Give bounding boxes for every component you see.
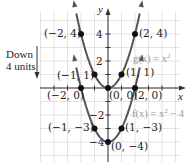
- f-label-tail: − 4: [168, 108, 185, 119]
- y-axis-arrow-icon: [106, 8, 111, 15]
- curve-arrow-icon: [139, 0, 144, 7]
- label-point-0-0: (0, 0): [109, 89, 137, 101]
- coordinate-plane: 4 2 −2 −4 y x (−2, 4) (2, 4) (−1, 1) (1,…: [0, 0, 196, 165]
- label-f-function: f(x) = x2 − 4: [132, 107, 185, 120]
- label-point-2-4: (2, 4): [139, 27, 167, 39]
- label-point-2-0: (2, 0): [134, 89, 162, 101]
- y-tick-2: 2: [96, 55, 103, 67]
- curve-arrow-icon: [72, 54, 77, 61]
- label-point-0-neg4: (0, −4): [111, 140, 148, 152]
- annotation-line2: 4 units: [6, 60, 36, 72]
- label-point-1-1: (1, 1): [126, 66, 154, 78]
- data-point: [119, 126, 125, 132]
- label-point-neg2-0: (−2, 0): [47, 89, 84, 101]
- g-label-exponent: 2: [167, 52, 171, 60]
- y-tick-4: 4: [96, 28, 103, 40]
- down-4-units-annotation: Down 4 units: [6, 48, 36, 72]
- x-axis-label: x: [177, 90, 183, 102]
- y-axis-label: y: [97, 3, 103, 15]
- data-point: [132, 31, 138, 37]
- curve-arrow-icon: [72, 0, 77, 7]
- label-point-1-neg3: (1, −3): [125, 121, 162, 133]
- y-tick-neg4: −4: [89, 136, 105, 148]
- data-point: [119, 72, 125, 78]
- label-point-neg1-neg3: (−1, −3): [48, 121, 94, 133]
- g-label-text: g(x) = x: [133, 53, 168, 65]
- f-label-text: f(x) = x: [132, 108, 165, 120]
- annotation-line1: Down: [6, 48, 36, 60]
- label-point-neg1-1: (−1, 1): [57, 69, 94, 81]
- label-point-neg2-4: (−2, 4): [44, 27, 81, 39]
- label-g-function: g(x) = x2: [133, 52, 171, 65]
- down-arrow-icon: [35, 72, 40, 79]
